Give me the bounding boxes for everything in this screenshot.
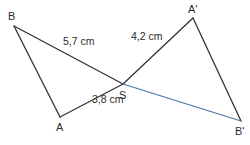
point-label-B-prime: B' [235, 125, 244, 137]
segment-SB-prime [123, 84, 241, 121]
length-label-BS: 5,7 cm [63, 35, 95, 47]
segment-SA-prime [123, 18, 193, 84]
segment-A-prime-B-prime [193, 18, 241, 121]
point-label-B: B [8, 10, 15, 22]
point-label-A-prime: A' [188, 3, 197, 15]
length-label-AS: 3,8 cm [92, 93, 124, 105]
point-label-A: A [56, 121, 64, 133]
geometry-diagram: B A S A' B' 5,7 cm 4,2 cm 3,8 cm [0, 0, 250, 145]
segment-BA [14, 26, 60, 117]
length-label-SA-prime: 4,2 cm [131, 30, 163, 42]
